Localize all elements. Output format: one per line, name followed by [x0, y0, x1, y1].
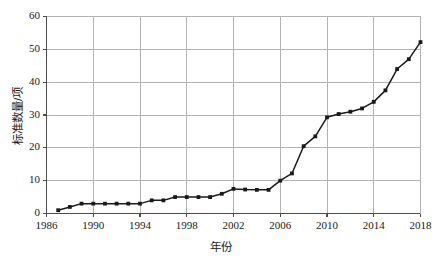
data-point-marker: [243, 188, 247, 192]
data-point-marker: [232, 187, 236, 191]
x-axis-title: 年份: [0, 238, 442, 254]
data-point-marker: [161, 198, 165, 202]
x-tick-label: 1998: [167, 219, 207, 231]
data-point-marker: [290, 172, 294, 176]
x-tick-label: 2018: [401, 219, 441, 231]
data-point-marker: [313, 134, 317, 138]
data-point-marker: [91, 202, 95, 206]
x-tick-label: 1994: [120, 219, 160, 231]
grid-lines: [47, 17, 421, 214]
data-point-marker: [419, 40, 423, 44]
y-axis-title: 标准数量/项: [9, 61, 25, 171]
data-point-marker: [372, 100, 376, 104]
axis-tick-marks: [43, 17, 421, 218]
data-point-marker: [278, 179, 282, 183]
data-point-marker: [197, 195, 201, 199]
data-point-marker: [220, 192, 224, 196]
data-point-marker: [115, 202, 119, 206]
data-point-marker: [348, 110, 352, 114]
data-point-marker: [103, 202, 107, 206]
x-tick-label: 2002: [214, 219, 254, 231]
data-point-marker: [68, 205, 72, 209]
x-tick-label: 2014: [354, 219, 394, 231]
data-point-marker: [255, 188, 259, 192]
data-point-marker: [173, 195, 177, 199]
data-series: [56, 40, 422, 212]
y-tick-label: 0: [8, 206, 40, 218]
x-tick-label: 2006: [260, 219, 300, 231]
data-point-marker: [80, 202, 84, 206]
data-point-marker: [208, 195, 212, 199]
y-tick-label: 50: [8, 42, 40, 54]
y-tick-label: 10: [8, 173, 40, 185]
data-point-marker: [302, 144, 306, 148]
data-point-marker: [150, 198, 154, 202]
data-point-marker: [185, 195, 189, 199]
x-tick-label: 1990: [73, 219, 113, 231]
data-point-marker: [337, 112, 341, 116]
data-point-marker: [138, 202, 142, 206]
y-tick-label: 60: [8, 9, 40, 21]
data-point-marker: [360, 107, 364, 111]
data-point-marker: [384, 88, 388, 92]
line-chart: 0102030405060 19861990199419982002200620…: [0, 0, 442, 261]
data-point-marker: [56, 208, 60, 212]
data-point-marker: [395, 67, 399, 71]
data-point-marker: [407, 57, 411, 61]
data-point-marker: [267, 188, 271, 192]
data-point-marker: [325, 115, 329, 119]
x-tick-label: 2010: [307, 219, 347, 231]
x-tick-label: 1986: [27, 219, 67, 231]
data-point-marker: [126, 202, 130, 206]
